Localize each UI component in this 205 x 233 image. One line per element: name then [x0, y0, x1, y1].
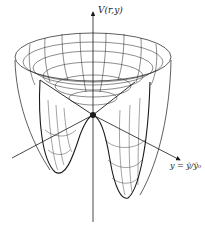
y-axis-left: [12, 115, 93, 158]
vertical-axis-label: V(r,y): [98, 5, 123, 15]
saddle-point: [90, 112, 96, 118]
well-hatching: [45, 98, 145, 195]
potential-surface-diagram: V(r,y) y = ŷ/ŷ₀: [0, 0, 205, 233]
y-axis-right: [93, 115, 180, 160]
horizontal-axis-label: y = ŷ/ŷ₀: [170, 161, 201, 170]
right-outer-wall: [140, 60, 171, 195]
diag-line-right: [93, 82, 135, 115]
surface-plot: [0, 0, 205, 233]
